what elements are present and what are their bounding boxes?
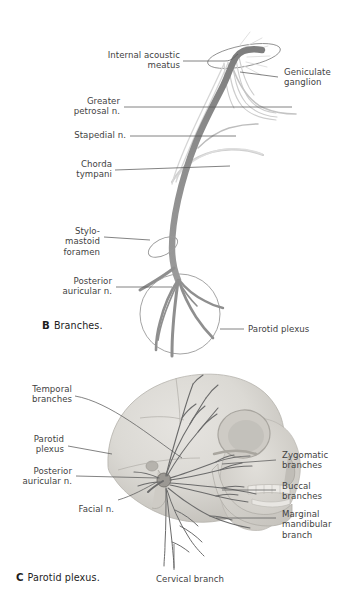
label-parotid-plexus-c: Parotid plexus [0, 434, 64, 455]
label-marginal-mandibular-branch: Marginal mandibular branch [282, 509, 354, 540]
label-buccal-branches: Buccal branches [282, 481, 354, 502]
trunk-accessory-strands [172, 63, 228, 184]
label-zygomatic-branches: Zygomatic branches [282, 450, 354, 471]
label-stylomastoid-foramen: Stylo- mastoid foramen [20, 226, 100, 257]
label-internal-acoustic-meatus: Internal acoustic meatus [30, 50, 180, 71]
facial-nerve-trunk [172, 49, 262, 280]
anatomy-figure: Internal acoustic meatus Geniculate gang… [0, 0, 355, 608]
internal-acoustic-meatus-outline [206, 39, 283, 74]
panel-c-parotid-plexus: Temporal branches Parotid plexus Posteri… [0, 358, 355, 608]
leader-chorda-tympani [115, 166, 230, 170]
orbit-inner-shadow [228, 420, 264, 452]
leader-stylomastoid-foramen [104, 237, 150, 240]
label-parotid-plexus: Parotid plexus [248, 324, 348, 334]
leader-parotid-plexus-c [68, 446, 112, 454]
label-temporal-branches: Temporal branches [0, 384, 72, 405]
label-cervical-branch: Cervical branch [156, 574, 256, 584]
label-facial-n: Facial n. [38, 504, 114, 514]
panel-c-caption: CParotid plexus. [16, 572, 100, 583]
label-greater-petrosal-n: Greater petrosal n. [20, 96, 120, 117]
label-stapedial-n: Stapedial n. [20, 130, 126, 140]
label-posterior-auricular-n: Posterior auricular n. [20, 276, 112, 297]
label-geniculate-ganglion: Geniculate ganglion [284, 67, 354, 88]
label-chorda-tympani: Chorda tympani [20, 159, 112, 180]
panel-b-caption-letter: B [42, 320, 50, 331]
label-posterior-auricular-n-c: Posterior auricular n. [0, 466, 72, 487]
panel-b-branches: Internal acoustic meatus Geniculate gang… [0, 0, 355, 358]
panel-b-caption-text: Branches. [54, 320, 103, 331]
leader-geniculate-ganglion [240, 72, 278, 77]
panel-b-caption: BBranches. [42, 320, 103, 331]
parotid-plexus-hub [157, 473, 171, 487]
leader-lines [104, 54, 292, 329]
panel-c-caption-letter: C [16, 572, 24, 583]
skull-lateral-view [108, 374, 300, 530]
panel-c-caption-text: Parotid plexus. [28, 572, 100, 583]
